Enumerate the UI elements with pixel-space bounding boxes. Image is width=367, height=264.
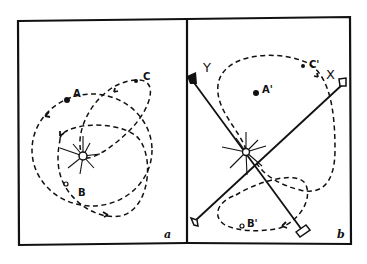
x-axis [196, 84, 343, 220]
arrow-icon [103, 212, 108, 217]
y-axis-arrow-icon [296, 225, 310, 237]
arrow-icon [45, 112, 50, 117]
label-b-prime: B' [247, 218, 258, 229]
label-b: B [78, 187, 86, 198]
sun-icon [60, 136, 100, 174]
arrow-icon [282, 222, 287, 228]
label-a-prime: A' [262, 84, 273, 95]
y-axis-tail-icon [187, 72, 197, 84]
point-c [134, 79, 138, 83]
point-a [64, 97, 70, 103]
sun-icon [222, 132, 266, 175]
point-b-prime [240, 224, 244, 228]
x-axis-arrow-icon [339, 78, 346, 86]
panel-label-a: a [164, 228, 171, 241]
x-axis-tail-icon [191, 218, 198, 226]
label-a: A [73, 88, 81, 99]
label-c: C [143, 71, 150, 82]
arrow-icon [114, 88, 118, 92]
arrow-icon [60, 131, 64, 136]
panel-b: Y X A' C' B' b [187, 55, 346, 241]
point-b [64, 182, 68, 186]
point-c-prime [301, 64, 305, 68]
orbit-a-circle [32, 94, 152, 206]
y-axis-label: Y [202, 60, 211, 75]
orbit-diagram: A C B a Y X [0, 0, 367, 264]
panel-label-b: b [337, 228, 345, 241]
label-c-prime: C' [309, 59, 319, 70]
arrow-icon [314, 73, 318, 77]
orbit-lower-loop [218, 178, 308, 231]
panel-a: A C B a [32, 71, 171, 241]
point-a-prime [253, 90, 259, 96]
x-axis-label: X [326, 67, 335, 82]
